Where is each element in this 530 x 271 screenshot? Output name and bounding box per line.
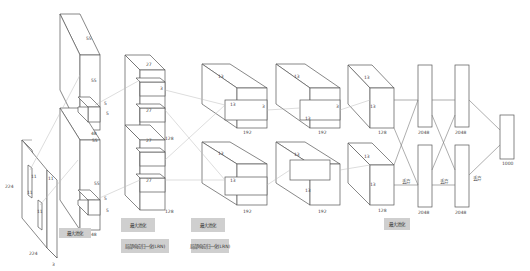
conv5-bottom-depth-label: 128 [378, 208, 387, 213]
conv3-top-height-label: 13 [230, 102, 236, 107]
conv2-bottom-depth-label: 128 [165, 209, 174, 214]
conv2-width-1-label: 27 [146, 62, 152, 67]
fc7-top-label: 2048 [455, 130, 467, 135]
conv3-top-depth-label: 192 [243, 130, 252, 135]
conv3-maxpool-tag: 最大池化 [191, 218, 225, 232]
conv3-bottom-width-label: 13 [218, 151, 224, 156]
conv1-top-depth-label: 48 [91, 131, 97, 136]
input-layer [22, 140, 57, 258]
input-width-label: 224 [29, 251, 38, 256]
conv1-bottom-height-label: 55 [94, 181, 100, 186]
conv5-maxpool-tag: 最大池化 [384, 218, 410, 230]
conv2-layer [125, 55, 165, 210]
conv3-kernel-label: 3 [262, 104, 265, 109]
conv4-bottom-height-label: 13 [305, 188, 311, 193]
dropout-label-2: 丢弃 [440, 178, 449, 185]
conv5-top-height-label: 13 [370, 104, 376, 109]
conv1-top-width-label: 55 [86, 36, 92, 41]
conv2-top-depth-label: 128 [165, 136, 174, 141]
conv5-bottom-height-label: 13 [370, 182, 376, 187]
conv2-width-3-label: 27 [146, 138, 152, 143]
fc7-bottom-label: 2048 [455, 210, 467, 215]
conv1-top-height-label: 55 [91, 78, 97, 83]
conv5-bottom-width-label: 13 [364, 154, 370, 159]
input-kernel-top-side-label: 11 [27, 190, 33, 195]
conv3-bottom-depth-label: 192 [243, 209, 252, 214]
conv1-kernel-1-label: 5 [104, 101, 107, 106]
conv4-bottom-depth-label: 192 [318, 209, 327, 214]
conv1-bottom-width-label: 55 [92, 138, 98, 143]
conv5-top-depth-label: 128 [378, 130, 387, 135]
conv3-lrn-tag: 局部响应归一化(LRN) [191, 239, 229, 253]
conv1-layer [60, 14, 100, 230]
conv4-top-height-label: 13 [305, 116, 311, 121]
dropout-label-1: 丢弃 [402, 178, 411, 185]
conv3-top-width-label: 13 [218, 74, 224, 79]
input-depth-label: 3 [52, 262, 55, 267]
conv3-layer [202, 64, 267, 205]
conv2-maxpool-tag: 最大池化 [121, 218, 155, 232]
conv4-bottom-width-label: 13 [294, 152, 300, 157]
input-kernel-top-label: 11 [31, 174, 37, 179]
conv1-kernel-4-label: 5 [106, 208, 109, 213]
conv5-top-width-label: 13 [364, 75, 370, 80]
fc6-top-label: 2048 [418, 130, 430, 135]
conv4-layer [276, 64, 340, 205]
input-height-label: 224 [5, 184, 14, 189]
conv4-top-width-label: 13 [294, 74, 300, 79]
conv2-lrn-tag: 局部响应归一化(LRN) [121, 239, 169, 253]
conv2-kernel-label: 3 [160, 86, 163, 91]
conv2-width-4-label: 27 [146, 178, 152, 183]
conv1-bottom-depth-label: 48 [91, 232, 97, 237]
conv1-kernel-3-label: 5 [104, 196, 107, 201]
conv1-maxpool-tag: 最大池化 [59, 228, 91, 238]
conv2-width-2-label: 27 [146, 108, 152, 113]
fc6-bottom-label: 2048 [418, 210, 430, 215]
input-kernel-bottom-label: 11 [48, 176, 54, 181]
input-kernel-bottom-side-label: 11 [37, 209, 43, 214]
fc-layers [418, 65, 514, 207]
conv3-bottom-height-label: 13 [230, 178, 236, 183]
dropout-label-3: 丢弃 [473, 175, 482, 182]
conv1-kernel-2-label: 5 [106, 111, 109, 116]
conv4-top-depth-label: 192 [318, 130, 327, 135]
fc8-output-label: 1000 [502, 161, 514, 166]
conv4-kernel-label: 3 [336, 104, 339, 109]
